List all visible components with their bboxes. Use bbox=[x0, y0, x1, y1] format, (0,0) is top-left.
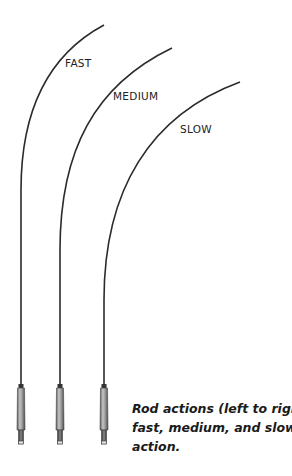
caption-line-2: fast, medium, and slow bbox=[132, 418, 292, 437]
slow-label: SLOW bbox=[180, 124, 212, 135]
figure-caption: Rod actions (left to right): fast, mediu… bbox=[132, 399, 292, 456]
slow-rod bbox=[100, 82, 240, 444]
fast-label: FAST bbox=[65, 58, 92, 69]
caption-line-3: action. bbox=[132, 437, 292, 456]
medium-label: MEDIUM bbox=[113, 91, 158, 102]
medium-rod bbox=[56, 48, 172, 444]
caption-line-1: Rod actions (left to right): bbox=[132, 399, 292, 418]
rod-actions-diagram: FAST MEDIUM SLOW Rod actions (left to ri… bbox=[0, 0, 292, 476]
